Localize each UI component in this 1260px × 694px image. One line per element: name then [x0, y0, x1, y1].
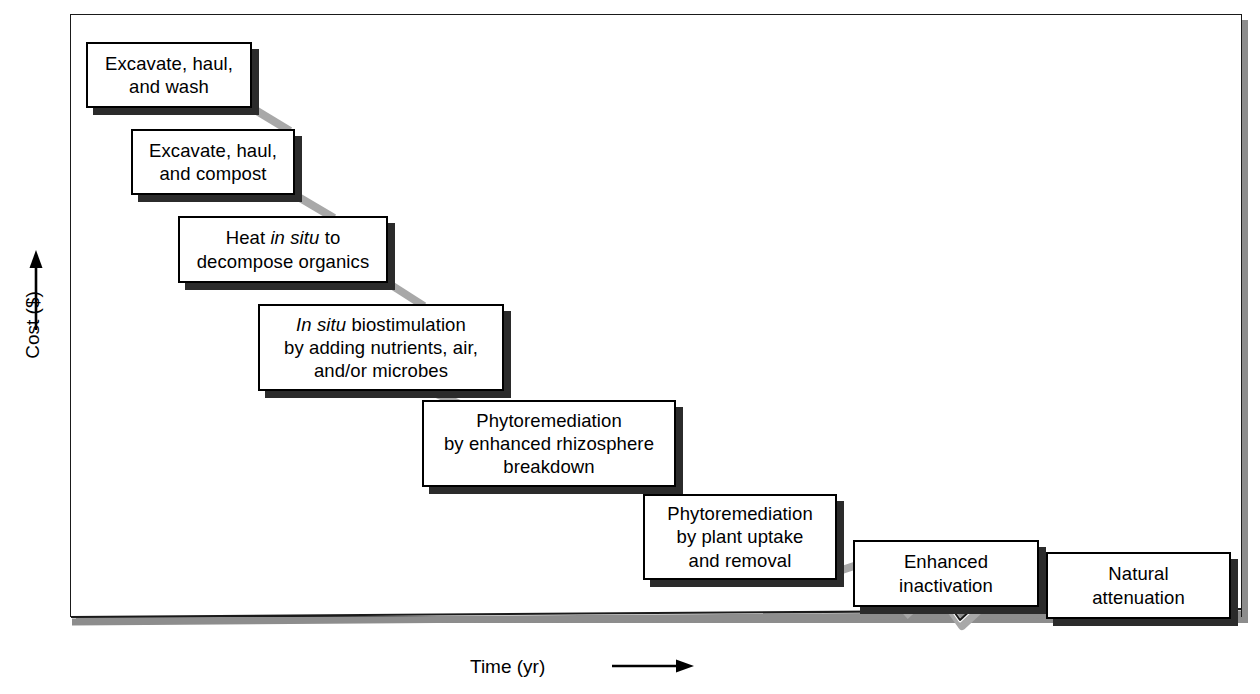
step-box-label: Heat in situ todecompose organics [191, 226, 376, 273]
step-box-excavate-haul-wash[interactable]: Excavate, haul,and wash [86, 42, 252, 108]
step-box-label: Enhancedinactivation [893, 550, 999, 597]
step-box-label: Excavate, haul,and compost [143, 139, 283, 186]
step-box-natural-attenuation[interactable]: Naturalattenuation [1046, 552, 1231, 619]
step-box-excavate-haul-compost[interactable]: Excavate, haul,and compost [131, 129, 295, 195]
step-box-enhanced-inactivation[interactable]: Enhancedinactivation [853, 540, 1039, 607]
y-axis-label-group: Cost ($) [6, 236, 62, 436]
step-box-label: Phytoremediationby enhanced rhizosphereb… [438, 409, 660, 479]
step-box-label: Excavate, haul,and wash [99, 52, 239, 99]
step-box-phyto-plant-uptake[interactable]: Phytoremediationby plant uptakeand remov… [643, 494, 837, 580]
step-box-phyto-rhizosphere[interactable]: Phytoremediationby enhanced rhizosphereb… [422, 400, 676, 487]
y-axis-label: Cost ($) [22, 250, 44, 400]
step-box-label: Naturalattenuation [1086, 562, 1191, 609]
step-box-heat-in-situ[interactable]: Heat in situ todecompose organics [178, 216, 388, 283]
step-box-in-situ-biostimulation[interactable]: In situ biostimulationby adding nutrient… [258, 304, 504, 391]
step-box-label: Phytoremediationby plant uptakeand remov… [661, 502, 819, 572]
x-axis-label: Time (yr) [470, 656, 545, 678]
x-axis-label-group: Time (yr) [470, 650, 730, 684]
remediation-cost-time-figure: Cost ($) Time (yr) Excavate, haul,a [0, 0, 1260, 694]
step-box-label: In situ biostimulationby adding nutrient… [278, 313, 484, 383]
